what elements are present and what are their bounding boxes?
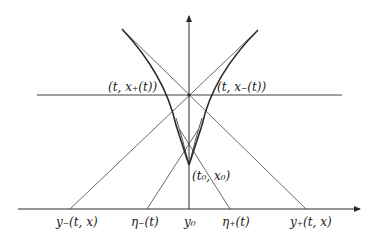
label-point-plus: (t, x₊(t)): [108, 80, 157, 94]
label-origin-point: (t₀, x₀): [192, 169, 231, 183]
cusp-curve-right: [189, 30, 258, 165]
diagram-canvas: (t, x₊(t)) (t, x₋(t)) (t₀, x₀) y₋(t, x) …: [0, 0, 375, 241]
label-point-minus: (t, x₋(t)): [217, 80, 266, 94]
cusp-curve-left: [122, 29, 189, 165]
intersection-point: [187, 93, 190, 96]
label-y-minus: y₋(t, x): [55, 215, 98, 229]
characteristic-eta-minus: [147, 130, 198, 209]
label-eta-minus: η₋(t): [131, 215, 159, 229]
label-y0: y₀: [183, 215, 196, 229]
label-eta-plus: η₊(t): [222, 215, 250, 229]
label-y-plus: y₊(t, x): [289, 215, 332, 229]
